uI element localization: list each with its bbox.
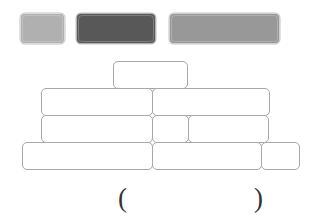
row-2: [41, 88, 270, 116]
row-1-top: [113, 61, 188, 89]
cell-3-2[interactable]: [152, 115, 189, 143]
cell-3-1[interactable]: [41, 115, 153, 143]
cell-4-3[interactable]: [261, 142, 300, 170]
cell-2-1[interactable]: [41, 88, 153, 116]
cell-4-2[interactable]: [152, 142, 262, 170]
cell-3-3[interactable]: [188, 115, 269, 143]
cell-1-1[interactable]: [113, 61, 188, 89]
row-4-bottom: [22, 142, 300, 170]
cell-2-2[interactable]: [152, 88, 270, 116]
worksheet-canvas: ( ): [0, 0, 314, 220]
cell-4-1[interactable]: [22, 142, 153, 170]
close-paren: ): [254, 183, 263, 213]
open-paren: (: [118, 183, 127, 213]
answer-line: ( ): [0, 183, 314, 213]
row-3: [41, 115, 269, 143]
answer-blank[interactable]: [131, 183, 253, 213]
